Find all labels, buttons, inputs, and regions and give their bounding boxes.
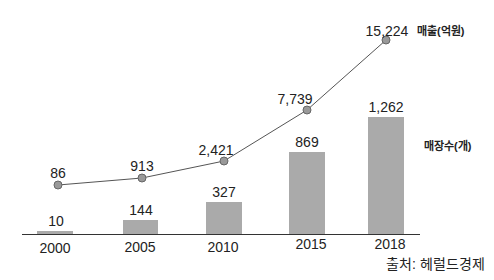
marker-2005: [138, 174, 146, 182]
bar-2015: [289, 152, 325, 234]
marker-2015: [303, 106, 311, 114]
source-note: 출처: 헤럴드경제: [386, 256, 485, 272]
line-label-2005: 913: [130, 158, 154, 174]
line-label-2000: 86: [50, 165, 66, 181]
marker-2000: [54, 181, 62, 189]
legend-stores: 매장수(개): [424, 139, 472, 152]
x-tick-2010: 2010: [207, 239, 238, 255]
line-markers: [54, 36, 390, 189]
x-tick-2018: 2018: [374, 236, 405, 252]
line-label-2018: 15,224: [366, 23, 409, 39]
x-tick-2000: 2000: [39, 240, 70, 256]
line-label-2015: 7,739: [277, 91, 312, 107]
line-label-2010: 2,421: [198, 142, 233, 158]
legend-sales: 매출(억원): [417, 24, 465, 37]
chart: 86 913 2,421 7,739 15,224 10 144 327 869…: [0, 0, 494, 280]
bar-label-2000: 10: [48, 213, 64, 229]
bar-label-2018: 1,262: [368, 99, 403, 115]
bar-2000: [37, 231, 73, 234]
bar-label-2010: 327: [212, 184, 236, 200]
bar-label-2015: 869: [295, 134, 319, 150]
bars: [37, 117, 404, 234]
x-tick-2015: 2015: [295, 236, 326, 252]
bar-2018: [368, 117, 404, 234]
bar-2005: [123, 220, 158, 234]
bar-label-2005: 144: [129, 202, 153, 218]
marker-2010: [220, 157, 228, 165]
bar-2010: [206, 202, 242, 234]
x-tick-2005: 2005: [124, 239, 155, 255]
